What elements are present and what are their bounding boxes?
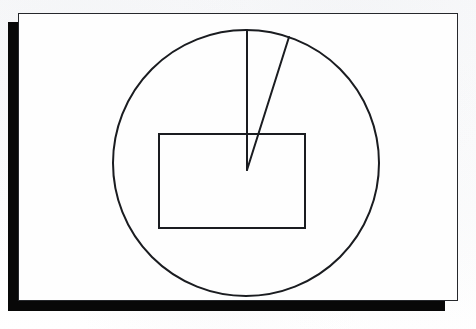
page-frame-border: [18, 13, 458, 301]
page-shadow-bottom: [8, 300, 445, 311]
clipped-top-text: [0, 0, 476, 7]
scanned-page: [0, 0, 476, 329]
